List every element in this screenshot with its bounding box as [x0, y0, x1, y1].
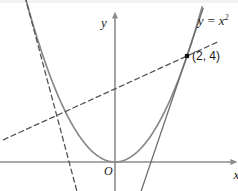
axes-group [0, 18, 231, 191]
point-coordinate-label: (2, 4) [192, 50, 220, 62]
y-axis-label: y [101, 16, 107, 29]
series-parabola [17, 0, 202, 162]
curve-exponent-text: 2 [225, 13, 229, 22]
point-2-4-marker [185, 54, 189, 58]
origin-label: O [104, 165, 113, 177]
curve-equation-label: y = x2 [198, 14, 229, 27]
x-axis-label: x [233, 168, 238, 181]
series-line-1 [141, 8, 203, 191]
data-points-group [185, 54, 189, 58]
graph-canvas [0, 0, 238, 191]
parabola-tangent-figure: y = x2 (2, 4) O x y [0, 0, 238, 191]
curve-equation-text: y = x [198, 14, 225, 29]
